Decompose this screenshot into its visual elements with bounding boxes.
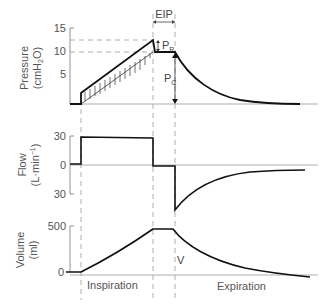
pressure-ylabel: Pressure (cmH2O) — [18, 46, 44, 90]
v-label: V — [177, 254, 185, 266]
pc-label: PC — [164, 72, 176, 86]
flow-ylabel: Flow (L·min−1) — [16, 144, 41, 187]
svg-text:Flow: Flow — [16, 153, 28, 176]
pressure-trace — [70, 40, 300, 104]
flow-tick-neg30: 30 — [54, 188, 66, 200]
volume-tick-500: 500 — [48, 220, 66, 232]
svg-text:(L·min−1): (L·min−1) — [29, 144, 41, 187]
ventilator-waveform-diagram: 15 10 5 Pressure (cmH2O) EIP PR PC 30 0 … — [0, 0, 329, 306]
flow-trace — [70, 137, 305, 210]
pressure-tick-5: 5 — [60, 68, 66, 80]
expiration-label: Expiration — [217, 280, 266, 292]
pressure-tick-10: 10 — [54, 45, 66, 57]
svg-text:Pressure: Pressure — [18, 46, 30, 90]
svg-text:Volume: Volume — [14, 232, 26, 269]
flow-tick-0: 0 — [60, 159, 66, 171]
svg-text:(cmH2O): (cmH2O) — [31, 47, 44, 89]
volume-trace — [66, 229, 310, 277]
eip-label: EIP — [155, 8, 173, 20]
pressure-panel: 15 10 5 Pressure (cmH2O) EIP PR PC — [18, 8, 318, 104]
pr-label: PR — [162, 39, 174, 53]
volume-tick-0: 0 — [58, 266, 64, 278]
svg-text:(ml): (ml) — [27, 241, 39, 260]
volume-ylabel: Volume (ml) — [14, 232, 39, 269]
inspiration-label: Inspiration — [87, 279, 138, 291]
phase-dividers — [81, 14, 175, 300]
pressure-tick-15: 15 — [54, 22, 66, 34]
flow-tick-30: 30 — [54, 130, 66, 142]
flow-panel: 30 0 30 Flow (L·min−1) — [16, 130, 318, 210]
volume-panel: 500 0 Volume (ml) V — [14, 220, 318, 278]
